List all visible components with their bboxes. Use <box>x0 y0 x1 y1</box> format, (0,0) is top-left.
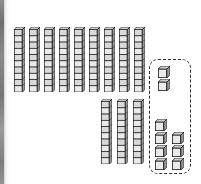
unit-cube <box>172 158 184 170</box>
ten-rod <box>89 27 100 92</box>
ten-rod <box>59 27 70 92</box>
unit-cube <box>158 79 170 91</box>
ten-rod <box>101 99 112 164</box>
unit-cube <box>155 119 167 131</box>
ten-rod <box>117 99 128 164</box>
ten-rod <box>134 27 145 92</box>
scan-edge-gradient <box>0 0 9 184</box>
unit-cube <box>172 145 184 157</box>
ten-rod <box>104 27 115 92</box>
scan-edge-band <box>0 0 4 184</box>
ten-rod <box>29 27 40 92</box>
unit-cube <box>155 158 167 170</box>
unit-cube <box>155 145 167 157</box>
unit-cube <box>155 132 167 144</box>
ten-rod <box>44 27 55 92</box>
ten-rod <box>74 27 85 92</box>
ten-rod <box>133 99 144 164</box>
ten-rod <box>14 27 25 92</box>
blocks-canvas <box>0 0 201 184</box>
ten-rod <box>119 27 130 92</box>
unit-cube <box>158 66 170 78</box>
unit-cube <box>172 132 184 144</box>
